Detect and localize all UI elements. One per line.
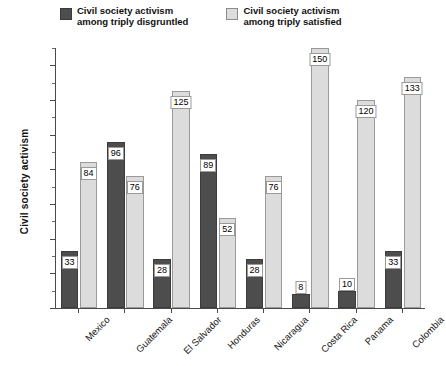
legend-label-satisfied-line2: among triply satisfied [243,16,341,27]
x-tick-nicaragua [263,308,264,313]
bar-value-label-costa-rica-series1: 8 [295,281,306,294]
y-tick-40 [50,239,55,240]
y-minor-tick-50 [52,221,55,222]
x-label-el-salvador: El Salvador [181,314,223,356]
bar-panama-series2 [357,100,375,308]
bar-guatemala-series1 [107,142,125,308]
x-tick-panama [356,308,357,313]
x-label-colombia: Colombia [410,314,446,350]
legend-entry-disgruntled: Civil society activism among triply disg… [60,6,188,27]
x-tick-mexico [78,308,79,313]
bar-colombia-series2 [404,77,422,308]
x-tick-el-salvador [171,308,172,313]
bar-panama-series1 [338,291,356,308]
x-label-mexico: Mexico [83,314,112,343]
bar-el-salvador-series2 [172,91,190,308]
x-label-guatemala: Guatemala [134,314,175,355]
bar-value-label-el-salvador-series2: 125 [171,96,192,109]
legend-swatch-dark [60,8,72,20]
y-tick-20 [50,273,55,274]
x-tick-colombia [402,308,403,313]
bar-value-label-nicaragua-series2: 76 [266,181,282,194]
bar-value-label-el-salvador-series1: 28 [154,264,170,277]
y-axis-line [55,48,56,308]
x-label-nicaragua: Nicaragua [272,314,310,352]
legend-label-disgruntled-line1: Civil society activism [77,5,173,16]
plot-area: 020406080100120140 338496762812589522876… [55,48,425,308]
y-minor-tick-150 [52,48,55,49]
y-tick-0 [50,308,55,309]
bar-value-label-mexico-series2: 84 [81,167,97,180]
y-tick-80 [50,169,55,170]
bar-value-label-costa-rica-series2: 150 [309,53,330,66]
bar-costa-rica-series2 [311,48,329,308]
legend-label-disgruntled: Civil society activism among triply disg… [77,6,188,27]
bar-value-label-guatemala-series1: 96 [108,147,124,160]
y-minor-tick-90 [52,152,55,153]
y-minor-tick-70 [52,187,55,188]
y-tick-60 [50,204,55,205]
legend-label-satisfied-line1: Civil society activism [243,5,339,16]
legend-entry-satisfied: Civil society activism among triply sati… [226,6,341,27]
x-tick-guatemala [124,308,125,313]
x-axis-line [55,308,425,309]
chart-legend: Civil society activism among triply disg… [60,6,342,27]
y-minor-tick-10 [52,291,55,292]
y-tick-120 [50,100,55,101]
bar-value-label-panama-series1: 10 [339,278,355,291]
bar-value-label-guatemala-series2: 76 [127,181,143,194]
bar-costa-rica-series1 [292,294,310,308]
legend-label-disgruntled-line2: among triply disgruntled [77,16,188,27]
x-tick-honduras [217,308,218,313]
bar-guatemala-series2 [126,176,144,308]
bar-honduras-series1 [200,154,218,308]
y-minor-tick-110 [52,117,55,118]
bar-nicaragua-series2 [265,176,283,308]
y-minor-tick-130 [52,83,55,84]
x-tick-costa-rica [309,308,310,313]
y-minor-tick-30 [52,256,55,257]
bar-value-label-colombia-series2: 133 [402,82,423,95]
bar-value-label-panama-series2: 120 [356,105,377,118]
bar-value-label-honduras-series2: 52 [219,223,235,236]
bar-value-label-colombia-series1: 33 [385,256,401,269]
y-tick-100 [50,135,55,136]
bar-mexico-series2 [80,162,98,308]
bar-value-label-mexico-series1: 33 [62,256,78,269]
y-axis-title: Civil society activism [19,102,30,262]
x-label-honduras: Honduras [225,314,262,351]
x-label-costa-rica: Costa Rica [319,314,360,355]
legend-label-satisfied: Civil society activism among triply sati… [243,6,341,27]
x-label-panama: Panama [362,314,395,347]
legend-swatch-light [226,8,238,20]
y-tick-140 [50,65,55,66]
bar-value-label-honduras-series1: 89 [200,159,216,172]
bar-value-label-nicaragua-series1: 28 [247,264,263,277]
